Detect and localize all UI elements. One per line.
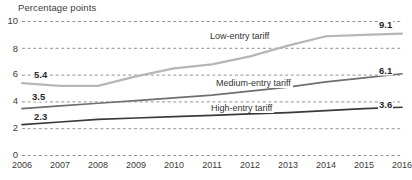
chart-container: Percentage points 10 8 6 4 2 0 Low-entry… <box>0 0 412 180</box>
x-tick-2014: 2014 <box>316 160 336 170</box>
x-tick-2009: 2009 <box>126 160 146 170</box>
series-label-low: Low-entry tariff <box>208 31 271 41</box>
x-tick-2013: 2013 <box>278 160 298 170</box>
value-label-high-end: 3.6 <box>378 99 393 110</box>
plot-area <box>0 0 412 180</box>
x-tick-2006: 2006 <box>12 160 32 170</box>
x-tick-2012: 2012 <box>240 160 260 170</box>
x-tick-2016: 2016 <box>392 160 412 170</box>
x-tick-2007: 2007 <box>50 160 70 170</box>
value-label-low-end: 9.1 <box>378 19 393 30</box>
value-label-high-start: 2.3 <box>33 111 48 122</box>
value-label-low-start: 5.4 <box>33 69 48 80</box>
x-tick-2011: 2011 <box>202 160 221 170</box>
x-tick-2015: 2015 <box>354 160 374 170</box>
value-label-medium-start: 3.5 <box>31 91 46 102</box>
value-label-medium-end: 6.1 <box>378 65 393 76</box>
x-tick-2010: 2010 <box>164 160 184 170</box>
x-tick-2008: 2008 <box>88 160 108 170</box>
series-label-medium: Medium-entry tariff <box>214 78 293 88</box>
gridlines <box>22 22 402 156</box>
series-label-high: High-entry tariff <box>209 103 274 113</box>
series-line-low-entry-tariff <box>22 34 402 86</box>
